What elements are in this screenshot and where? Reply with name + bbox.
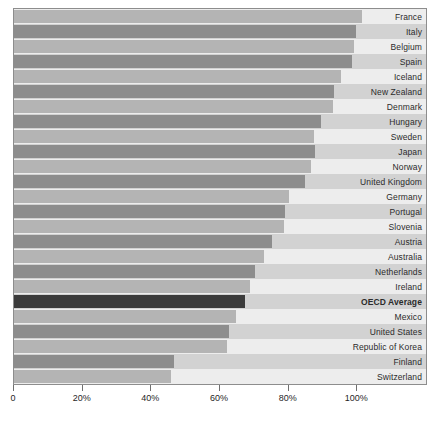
row-label-slovenia: Slovenia (389, 219, 422, 234)
x-axis: 020%40%60%80%100% (13, 385, 427, 423)
bar-row: Ireland (14, 279, 426, 294)
bar-row: United States (14, 324, 426, 339)
bar-row: Switzerland (14, 369, 426, 384)
row-label-germany: Germany (386, 189, 422, 204)
row-label-mexico: Mexico (394, 309, 422, 324)
row-label-hungary: Hungary (389, 114, 422, 129)
bar-row: Germany (14, 189, 426, 204)
bar-row: Netherlands (14, 264, 426, 279)
tick-mark-60 (219, 385, 220, 391)
bar-switzerland (14, 370, 171, 383)
bar-hungary (14, 115, 321, 128)
bar-row: Slovenia (14, 219, 426, 234)
bar-australia (14, 250, 264, 263)
bar-row: Republic of Korea (14, 339, 426, 354)
bar-netherlands (14, 265, 255, 278)
row-label-australia: Australia (388, 249, 422, 264)
bar-united-kingdom (14, 175, 305, 188)
tick-label-0: 0 (10, 393, 15, 403)
row-label-united-states: United States (370, 324, 422, 339)
tick-label-80: 80% (279, 393, 297, 403)
plot-area: FranceItalyBelgiumSpainIcelandNew Zealan… (13, 8, 427, 385)
row-label-finland: Finland (393, 354, 422, 369)
row-label-united-kingdom: United Kingdom (360, 174, 422, 189)
tick-label-20: 20% (73, 393, 91, 403)
row-label-new-zealand: New Zealand (371, 84, 422, 99)
row-label-austria: Austria (395, 234, 422, 249)
bar-belgium (14, 40, 354, 53)
tick-label-100: 100% (345, 393, 368, 403)
horizontal-bar-chart: FranceItalyBelgiumSpainIcelandNew Zealan… (0, 0, 435, 423)
bar-spain (14, 55, 352, 68)
bar-row: Mexico (14, 309, 426, 324)
bar-france (14, 10, 362, 23)
tick-mark-100 (356, 385, 357, 391)
bar-row: Austria (14, 234, 426, 249)
bar-germany (14, 190, 289, 203)
bar-austria (14, 235, 272, 248)
bar-row: France (14, 9, 426, 24)
bar-row: Iceland (14, 69, 426, 84)
bar-united-states (14, 325, 229, 338)
bar-row: Australia (14, 249, 426, 264)
bar-rows: FranceItalyBelgiumSpainIcelandNew Zealan… (14, 9, 426, 384)
bar-iceland (14, 70, 341, 83)
row-label-switzerland: Switzerland (377, 369, 422, 384)
tick-mark-80 (288, 385, 289, 391)
bar-slovenia (14, 220, 284, 233)
bar-row: OECD Average (14, 294, 426, 309)
row-label-italy: Italy (406, 24, 422, 39)
bar-new-zealand (14, 85, 334, 98)
bar-row: Finland (14, 354, 426, 369)
row-label-belgium: Belgium (391, 39, 422, 54)
tick-label-40: 40% (141, 393, 159, 403)
bar-italy (14, 25, 356, 38)
row-label-norway: Norway (393, 159, 422, 174)
row-label-japan: Japan (398, 144, 422, 159)
bar-row: Belgium (14, 39, 426, 54)
bar-mexico (14, 310, 236, 323)
bar-row: Sweden (14, 129, 426, 144)
bar-row: Portugal (14, 204, 426, 219)
bar-ireland (14, 280, 250, 293)
bar-sweden (14, 130, 314, 143)
bar-finland (14, 355, 174, 368)
row-label-portugal: Portugal (390, 204, 422, 219)
bar-row: Denmark (14, 99, 426, 114)
row-label-republic-of-korea: Republic of Korea (353, 339, 422, 354)
row-label-ireland: Ireland (395, 279, 422, 294)
bar-row: United Kingdom (14, 174, 426, 189)
tick-mark-40 (150, 385, 151, 391)
row-label-spain: Spain (400, 54, 422, 69)
bar-row: Italy (14, 24, 426, 39)
row-label-france: France (395, 9, 422, 24)
bar-row: Hungary (14, 114, 426, 129)
tick-label-60: 60% (210, 393, 228, 403)
tick-mark-0 (13, 385, 14, 391)
bar-republic-of-korea (14, 340, 227, 353)
bar-japan (14, 145, 315, 158)
row-label-denmark: Denmark (387, 99, 422, 114)
bar-norway (14, 160, 311, 173)
row-label-sweden: Sweden (391, 129, 422, 144)
row-label-netherlands: Netherlands (375, 264, 422, 279)
row-label-oecd-average: OECD Average (361, 294, 422, 309)
tick-mark-20 (82, 385, 83, 391)
bar-row: New Zealand (14, 84, 426, 99)
bar-row: Norway (14, 159, 426, 174)
bar-oecd-average (14, 295, 245, 308)
bar-row: Spain (14, 54, 426, 69)
bar-portugal (14, 205, 285, 218)
bar-row: Japan (14, 144, 426, 159)
row-label-iceland: Iceland (394, 69, 422, 84)
bar-denmark (14, 100, 333, 113)
